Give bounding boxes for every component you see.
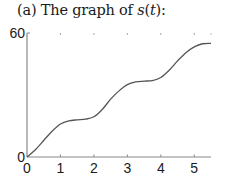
x-tick-label: 5 (190, 160, 198, 176)
ticks (27, 33, 211, 157)
x-tick-label: 1 (57, 160, 65, 176)
axes (27, 33, 211, 157)
tick-labels: 012345060 (9, 25, 198, 176)
x-tick-label: 3 (123, 160, 131, 176)
y-tick-label: 0 (17, 149, 25, 165)
x-tick-label: 4 (157, 160, 165, 176)
y-tick-label: 60 (9, 25, 25, 41)
x-tick-label: 2 (90, 160, 98, 176)
data-line-s-of-t (27, 43, 211, 157)
chart-plot: 012345060 (0, 0, 228, 186)
